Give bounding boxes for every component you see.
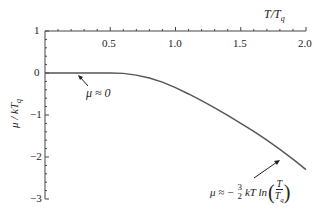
annotation-mu-zero: μ ≈ 0 [86, 86, 111, 101]
ann2-prefix: μ ≈ − [210, 186, 234, 198]
ann2-log-fraction: T Tq [275, 178, 284, 206]
y-tick-label: −3 [30, 192, 42, 204]
ann2-den: 2 [237, 192, 242, 201]
paren-open: ( [268, 181, 275, 204]
y-tick-label: 0 [34, 66, 40, 78]
paren-close: ) [284, 181, 291, 204]
ann2-fraction: 3 2 [237, 183, 242, 201]
y-tick-label: 1 [34, 24, 40, 36]
mu-curve [45, 73, 306, 170]
x-tick-label: 2.0 [298, 37, 312, 49]
axis-ticks [45, 27, 306, 199]
x-axis-label: T/Tq [264, 7, 285, 23]
y-tick-label: −2 [30, 150, 42, 162]
y-tick-label: −1 [30, 108, 42, 120]
arrow-mu-log [254, 162, 277, 178]
x-tick-label: 1.5 [233, 37, 247, 49]
y-axis-label: μ / kTq [8, 99, 23, 128]
arrow-head-icon [274, 160, 280, 165]
ann2-fnum: T [276, 178, 284, 190]
x-tick-label: 0.5 [102, 37, 116, 49]
ann2-mid: kT ln [245, 186, 267, 198]
annotation-mu-log: μ ≈ − 3 2 kT ln ( T Tq ) [210, 178, 291, 206]
ann2-fden: Tq [275, 190, 284, 206]
x-tick-label: 1.0 [168, 37, 182, 49]
